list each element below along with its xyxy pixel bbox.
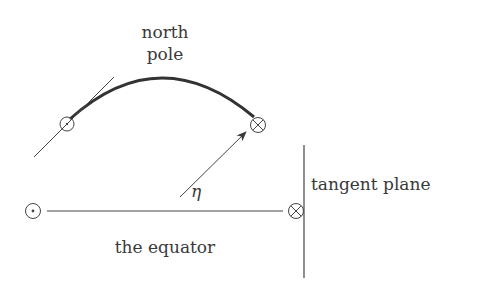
north-pole-label-line1: north <box>141 22 188 42</box>
parallel-transport-diagram: north pole η the equator tangent plane <box>0 0 477 290</box>
direction-arrow <box>180 132 246 197</box>
tangent-plane-label: tangent plane <box>311 174 431 194</box>
north-pole-label-line2: pole <box>147 44 184 64</box>
meridian-arc <box>70 78 254 119</box>
circle-dot-icon <box>26 204 41 219</box>
circle-cross-icon <box>251 118 266 133</box>
equator-label: the equator <box>115 237 216 257</box>
tangent-line <box>34 77 114 157</box>
eta-label: η <box>191 181 202 201</box>
circle-cross-icon <box>289 204 304 219</box>
circle-dot-icon <box>60 117 74 131</box>
